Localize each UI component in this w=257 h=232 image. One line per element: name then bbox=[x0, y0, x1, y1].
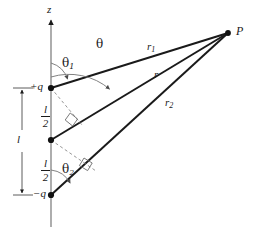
ray-r2-subscript: 2 bbox=[169, 101, 173, 110]
half-length-denominator-upper: 2 bbox=[42, 118, 50, 129]
angle-theta2-subscript: 2 bbox=[69, 168, 74, 177]
angle-theta1-subscript: 1 bbox=[69, 62, 74, 71]
angle-arc-theta-icon bbox=[51, 74, 110, 89]
half-length-label-upper: l 2 bbox=[41, 104, 50, 129]
ray-r-label: r bbox=[154, 69, 158, 80]
perpendicular-constructions bbox=[51, 88, 96, 171]
positive-charge-label: +q bbox=[30, 81, 43, 92]
point-p-label: P bbox=[236, 25, 243, 37]
ray-r2-label: r2 bbox=[165, 97, 173, 110]
ray-r1-label: r1 bbox=[147, 41, 155, 54]
angle-theta1-label: θ1 bbox=[62, 57, 74, 71]
ray-r-line bbox=[51, 33, 228, 140]
point-marker-icon-origin bbox=[48, 137, 54, 143]
rays-to-point-p bbox=[51, 33, 228, 195]
half-length-label-lower: l 2 bbox=[41, 158, 50, 183]
half-length-denominator-lower: 2 bbox=[42, 172, 50, 183]
point-marker-icon-negative-charge bbox=[48, 192, 54, 198]
angle-theta2-label: θ2 bbox=[62, 163, 74, 177]
half-length-numerator-lower: l bbox=[43, 158, 48, 169]
angle-theta-label: θ bbox=[96, 38, 103, 50]
half-length-numerator-upper: l bbox=[43, 104, 48, 115]
dipole-geometry-figure: z P +q −q l l 2 l 2 r1 r r2 θ θ1 θ2 bbox=[0, 0, 257, 232]
length-dimension-group bbox=[13, 88, 33, 195]
length-l-label: l bbox=[17, 134, 20, 145]
negative-charge-label: −q bbox=[33, 188, 46, 199]
z-axis-label: z bbox=[47, 4, 51, 15]
ray-r1-line bbox=[51, 33, 228, 88]
ray-r1-subscript: 1 bbox=[151, 45, 155, 54]
ray-r2-line bbox=[51, 33, 228, 195]
point-marker-icon-positive-charge bbox=[48, 85, 54, 91]
point-marker-icon-field-point bbox=[225, 30, 231, 36]
